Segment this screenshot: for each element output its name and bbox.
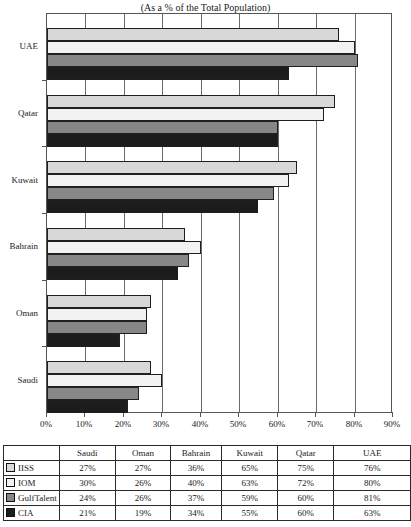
y-axis-tick <box>42 346 46 347</box>
x-tick-label-50%: 50% <box>230 419 247 429</box>
x-axis-tick-60% <box>277 412 278 417</box>
bar-cia-qatar <box>47 134 278 147</box>
legend-swatch-iom <box>6 478 15 487</box>
column-header-oman: Oman <box>115 446 170 461</box>
bar-iiss-uae <box>47 28 339 41</box>
data-table-body: SaudiOmanBahrainKuwaitQatarUAEIISS27%27%… <box>4 446 411 521</box>
cell-gulftalent-bahrain: 37% <box>171 491 222 506</box>
category-label-bahrain: Bahrain <box>0 241 42 251</box>
table-row-iom: IOM30%26%40%63%72%80% <box>4 476 411 491</box>
category-label-qatar: Qatar <box>0 108 42 118</box>
cell-iiss-bahrain: 36% <box>171 461 222 476</box>
category-label-oman: Oman <box>0 308 42 318</box>
x-axis-tick-80% <box>354 412 355 417</box>
data-table: SaudiOmanBahrainKuwaitQatarUAEIISS27%27%… <box>3 445 411 521</box>
table-row-gulftalent: GulfTalent24%26%37%59%60%81% <box>4 491 411 506</box>
cell-iiss-kuwait: 65% <box>221 461 277 476</box>
bar-gulftalent-oman <box>47 321 147 334</box>
x-axis-tick-50% <box>238 412 239 417</box>
bar-iom-kuwait <box>47 174 289 187</box>
x-tick-label-70%: 70% <box>307 419 324 429</box>
column-header-saudi: Saudi <box>59 446 115 461</box>
column-header-bahrain: Bahrain <box>171 446 222 461</box>
cell-iiss-qatar: 75% <box>278 461 334 476</box>
chart-page: (As a % of the Total Population) SaudiOm… <box>0 0 411 527</box>
legend-swatch-cia <box>6 508 15 517</box>
legend-swatch-gulftalent <box>6 493 15 502</box>
legend-swatch-iiss <box>6 463 15 472</box>
cell-gulftalent-qatar: 60% <box>278 491 334 506</box>
cell-iom-qatar: 72% <box>278 476 334 491</box>
bar-iiss-kuwait <box>47 161 297 174</box>
cell-iiss-saudi: 27% <box>59 461 115 476</box>
x-axis-tick-40% <box>200 412 201 417</box>
cell-iom-kuwait: 63% <box>221 476 277 491</box>
x-tick-label-0%: 0% <box>40 419 52 429</box>
bar-cia-bahrain <box>47 267 178 280</box>
bar-cia-uae <box>47 67 289 80</box>
x-tick-label-20%: 20% <box>115 419 132 429</box>
cell-cia-uae: 63% <box>334 506 411 521</box>
x-axis-tick-30% <box>161 412 162 417</box>
chart-title: (As a % of the Total Population) <box>0 2 411 13</box>
cell-cia-qatar: 60% <box>278 506 334 521</box>
y-axis-tick <box>42 213 46 214</box>
bar-iom-bahrain <box>47 241 201 254</box>
y-axis-tick <box>42 146 46 147</box>
cell-cia-oman: 19% <box>115 506 170 521</box>
cell-iom-oman: 26% <box>115 476 170 491</box>
bar-gulftalent-saudi <box>47 387 139 400</box>
cell-iom-uae: 80% <box>334 476 411 491</box>
cell-iiss-uae: 76% <box>334 461 411 476</box>
cell-cia-bahrain: 34% <box>171 506 222 521</box>
bar-cia-saudi <box>47 400 128 413</box>
cell-gulftalent-kuwait: 59% <box>221 491 277 506</box>
table-corner-cell <box>4 446 60 461</box>
cell-gulftalent-saudi: 24% <box>59 491 115 506</box>
bar-iiss-oman <box>47 295 151 308</box>
bar-gulftalent-qatar <box>47 121 278 134</box>
gridline-70 <box>316 14 317 412</box>
x-axis-tick-70% <box>315 412 316 417</box>
plot-area <box>46 13 392 413</box>
cell-gulftalent-oman: 26% <box>115 491 170 506</box>
row-label-iom: IOM <box>4 476 60 491</box>
column-header-qatar: Qatar <box>278 446 334 461</box>
category-label-kuwait: Kuwait <box>0 175 42 185</box>
bar-iiss-bahrain <box>47 228 185 241</box>
table-row-iiss: IISS27%27%36%65%75%76% <box>4 461 411 476</box>
row-label-gulftalent: GulfTalent <box>4 491 60 506</box>
bar-gulftalent-uae <box>47 54 358 67</box>
row-label-iiss: IISS <box>4 461 60 476</box>
y-axis-tick <box>42 280 46 281</box>
category-label-uae: UAE <box>0 41 42 51</box>
x-tick-label-60%: 60% <box>269 419 286 429</box>
x-tick-label-80%: 80% <box>346 419 363 429</box>
bar-iom-qatar <box>47 108 324 121</box>
cell-iom-saudi: 30% <box>59 476 115 491</box>
x-tick-label-40%: 40% <box>192 419 209 429</box>
y-axis-tick <box>42 80 46 81</box>
table-header-row: SaudiOmanBahrainKuwaitQatarUAE <box>4 446 411 461</box>
bar-iom-saudi <box>47 374 162 387</box>
bar-gulftalent-kuwait <box>47 187 274 200</box>
bar-cia-oman <box>47 334 120 347</box>
bar-iiss-saudi <box>47 361 151 374</box>
cell-gulftalent-uae: 81% <box>334 491 411 506</box>
column-header-kuwait: Kuwait <box>221 446 277 461</box>
x-tick-label-10%: 10% <box>76 419 93 429</box>
x-axis-tick-90% <box>392 412 393 417</box>
x-tick-label-90%: 90% <box>384 419 401 429</box>
bar-iom-uae <box>47 41 355 54</box>
cell-cia-kuwait: 55% <box>221 506 277 521</box>
bar-iiss-qatar <box>47 95 335 108</box>
bar-iom-oman <box>47 308 147 321</box>
x-tick-label-30%: 30% <box>153 419 170 429</box>
gridline-80 <box>355 14 356 412</box>
column-header-uae: UAE <box>334 446 411 461</box>
cell-iom-bahrain: 40% <box>171 476 222 491</box>
bar-cia-kuwait <box>47 200 258 213</box>
table-row-cia: CIA21%19%34%55%60%63% <box>4 506 411 521</box>
cell-iiss-oman: 27% <box>115 461 170 476</box>
row-label-cia: CIA <box>4 506 60 521</box>
